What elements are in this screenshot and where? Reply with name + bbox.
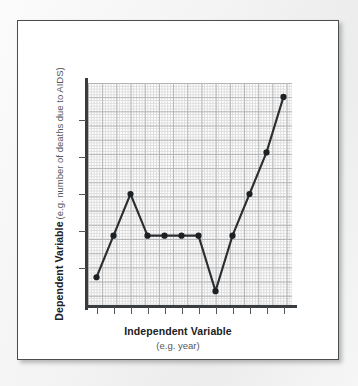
x-tick-1 [97, 307, 98, 314]
data-point [246, 191, 252, 197]
x-tick-5 [165, 307, 166, 314]
y-axis-label-group: Dependent Variable (e.g. number of death… [36, 83, 82, 305]
x-tick-8 [216, 307, 217, 314]
data-point [127, 191, 133, 197]
data-point [144, 233, 150, 239]
x-axis-label-group: Independent Variable (e.g. year) [18, 325, 338, 352]
data-point [161, 233, 167, 239]
x-tick-10 [250, 307, 251, 314]
data-point [110, 233, 116, 239]
x-tick-6 [182, 307, 183, 314]
figure-card: Dependent Variable (e.g. number of death… [17, 20, 339, 360]
x-axis-title: Independent Variable [18, 325, 338, 338]
x-tick-2 [114, 307, 115, 314]
y-axis-subtitle: (e.g. number of deaths due to AIDS) [53, 67, 66, 219]
figure-card-inner: Dependent Variable (e.g. number of death… [18, 21, 338, 359]
x-axis-subtitle: (e.g. year) [18, 339, 338, 352]
x-tick-4 [148, 307, 149, 314]
x-tick-11 [267, 307, 268, 314]
data-point [93, 274, 99, 280]
x-tick-12 [284, 307, 285, 314]
data-point [280, 94, 286, 100]
plot-area [88, 83, 292, 305]
data-point [229, 233, 235, 239]
data-point [195, 233, 201, 239]
data-point [263, 149, 269, 155]
data-point [212, 288, 218, 294]
x-tick-3 [131, 307, 132, 314]
y-axis-title: Dependent Variable [53, 221, 66, 320]
x-tick-9 [233, 307, 234, 314]
line-series [88, 83, 292, 305]
x-tick-7 [199, 307, 200, 314]
x-axis-line [85, 305, 297, 308]
data-point [178, 233, 184, 239]
